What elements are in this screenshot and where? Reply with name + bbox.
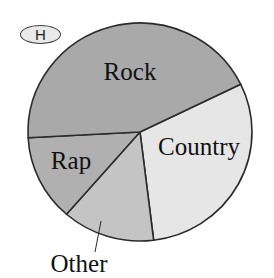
slice-label-rap: Rap [51, 147, 91, 174]
pie-chart: CountryOtherRapRock [0, 0, 274, 278]
pie-chart-figure: H CountryOtherRapRock [0, 0, 274, 278]
slice-label-rock: Rock [104, 58, 157, 85]
slice-label-country: Country [158, 133, 240, 160]
pie-slices [28, 23, 252, 241]
slice-label-other: Other [51, 250, 109, 277]
